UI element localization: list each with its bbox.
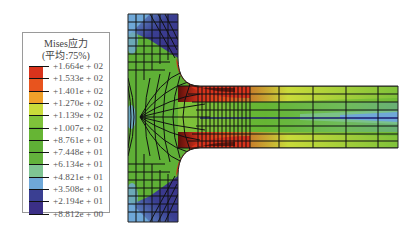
fea-model — [0, 0, 418, 232]
